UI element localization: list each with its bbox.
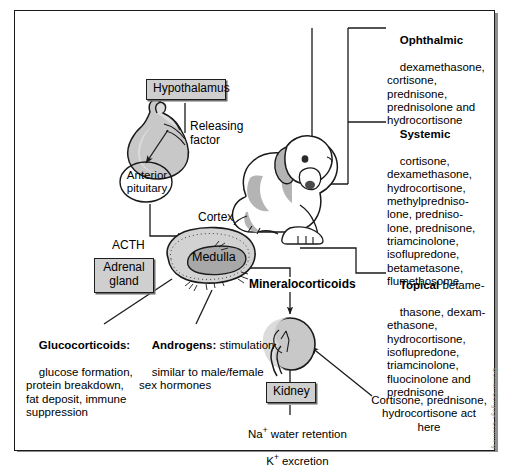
- drug-list-topical-inline: betame-: [439, 279, 484, 291]
- dog-illustration: [232, 136, 337, 244]
- anterior-pituitary-label: Anterior pituitary: [120, 169, 174, 196]
- publisher-credit: Delmar/Cengage Learning: [492, 368, 499, 382]
- dog-nose: [305, 181, 315, 189]
- drug-list-topical: Topical betame- thasone, dexam- ethasone…: [387, 266, 485, 413]
- glucocorticoids-heading: Glucocorticoids:: [39, 339, 130, 351]
- hypothalamus-box: Hypothalamus: [146, 79, 226, 100]
- drug-list-ophthalmic-heading: Ophthalmic: [400, 34, 463, 46]
- leader-androgens: [196, 290, 212, 324]
- sodium-label: Na: [248, 428, 263, 440]
- mineralocorticoids-label: Mineralocorticoids: [249, 278, 356, 292]
- leader-topical: [300, 248, 386, 273]
- sodium-effect: water retention: [268, 428, 347, 440]
- releasing-factor-label: Releasing factor: [190, 120, 243, 148]
- potassium-label: K: [266, 455, 274, 466]
- corticosteroid-diagram: Hypothalamus Releasing factor Anterior p…: [0, 0, 512, 466]
- glucocorticoids-callout: Glucocorticoids: glucose formation, prot…: [26, 326, 133, 433]
- kidney-function-text: Na+ water retention K+ excretion: [216, 415, 366, 466]
- leader-pituitary-acth: [150, 204, 185, 236]
- acth-label: ACTH: [112, 239, 145, 253]
- drug-list-topical-heading: Topical: [400, 279, 439, 291]
- arrow-drugs-act-here: [311, 347, 372, 396]
- adrenal-gland-box: Adrenal gland: [94, 258, 154, 293]
- potassium-effect: excretion: [279, 455, 329, 466]
- dog-eye: [302, 155, 309, 163]
- drug-list-systemic-heading: Systemic: [400, 128, 451, 140]
- androgens-heading: Androgens:: [152, 339, 217, 351]
- androgens-inline: stimulation: [216, 339, 274, 351]
- glucocorticoids-body: glucose formation, protein breakdown, fa…: [26, 366, 133, 418]
- androgens-callout: Androgens: stimulation similar to male/f…: [139, 326, 274, 406]
- androgens-body: similar to male/female sex hormones: [139, 366, 264, 391]
- cortex-label: Cortex: [198, 211, 233, 225]
- drug-list-topical-body: thasone, dexam- ethasone, hydrocortisone…: [387, 306, 485, 398]
- medulla-label: Medulla: [192, 250, 236, 265]
